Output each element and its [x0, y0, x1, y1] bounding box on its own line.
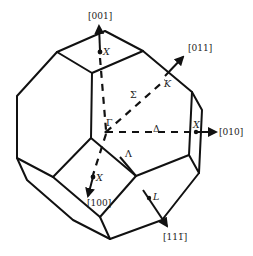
labels: [001] [011] [010] [100] [111̅] X X X K L… [87, 11, 243, 242]
x-point-top [98, 50, 103, 55]
arrow-100 [88, 177, 93, 196]
brillouin-zone-diagram: [001] [011] [010] [100] [111̅] X X X K L… [0, 0, 253, 256]
label-k: K [163, 78, 172, 89]
label-x-front: X [95, 172, 104, 183]
label-l: L [152, 191, 159, 202]
label-lambda: Λ [124, 148, 132, 159]
gamma-point [104, 130, 107, 133]
label-delta: Δ [153, 123, 160, 134]
arrow-lambda [120, 157, 136, 176]
label-011: [011] [188, 43, 212, 53]
l-point [147, 196, 151, 200]
label-gamma: Γ [106, 117, 113, 128]
label-111bar: [111̅] [163, 232, 187, 242]
label-010: [010] [219, 127, 243, 137]
label-100: [100] [87, 198, 111, 208]
label-x-top: X [102, 46, 111, 57]
x-point-front [91, 175, 96, 180]
label-sigma: Σ [130, 89, 137, 100]
label-001: [001] [88, 11, 112, 21]
label-x-right: X [192, 119, 201, 130]
arrow-011 [165, 57, 183, 76]
x-point-right [194, 130, 198, 134]
arrow-001 [99, 26, 100, 51]
